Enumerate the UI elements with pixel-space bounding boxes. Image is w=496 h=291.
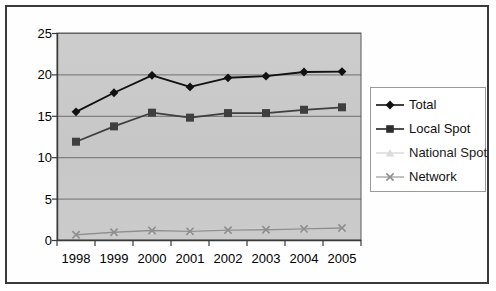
y-tick-10: 10 [24, 151, 52, 164]
data-point-marker [300, 106, 308, 114]
chart-figure: 25 20 15 10 5 0 1998 1999 2000 2001 2002… [0, 0, 496, 291]
x-axis-labels: 1998 1999 2000 2001 2002 2003 2004 2005 [57, 252, 361, 274]
chart-legend: Total Local Spot National Spot [370, 87, 486, 192]
legend-label-national-spot: National Spot [405, 146, 487, 160]
y-axis-ticks [52, 34, 57, 241]
diamond-marker-icon [375, 98, 405, 112]
x-marker-icon [375, 170, 405, 184]
triangle-marker-icon [375, 146, 405, 160]
data-point-marker [72, 138, 80, 146]
y-tick-25: 25 [24, 27, 52, 40]
square-marker-icon [375, 122, 405, 136]
y-tick-20: 20 [24, 68, 52, 81]
y-tick-0: 0 [24, 234, 52, 247]
legend-item-local-spot: Local Spot [375, 117, 481, 141]
data-point-marker [224, 109, 232, 117]
plot-area-background [57, 33, 361, 240]
y-tick-5: 5 [24, 193, 52, 206]
data-point-marker [338, 103, 346, 111]
x-tick-2005: 2005 [319, 252, 365, 266]
y-axis-labels: 25 20 15 10 5 0 [18, 0, 52, 291]
legend-label-network: Network [405, 170, 457, 184]
legend-label-total: Total [405, 98, 436, 112]
y-tick-15: 15 [24, 110, 52, 123]
legend-label-local-spot: Local Spot [405, 122, 470, 136]
legend-item-network: Network [375, 165, 481, 189]
data-point-marker [148, 109, 156, 117]
data-point-marker [262, 109, 270, 117]
data-point-marker [110, 122, 118, 130]
data-point-marker [186, 114, 194, 122]
legend-item-national-spot: National Spot [375, 141, 481, 165]
legend-item-total: Total [375, 93, 481, 117]
